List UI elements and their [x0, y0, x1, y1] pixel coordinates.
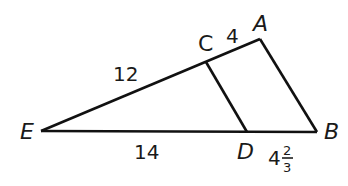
segment-AB: [260, 39, 317, 132]
length-label-DB-numerator: 2: [283, 143, 291, 158]
segment-EB: [41, 131, 317, 132]
vertex-label-D: D: [237, 139, 254, 164]
vertex-label-A: A: [251, 11, 268, 36]
length-label-CA: 4: [226, 24, 239, 48]
segment-CD: [206, 62, 247, 132]
vertex-label-E: E: [20, 119, 34, 144]
length-label-EC: 12: [113, 62, 138, 86]
vertex-label-B: B: [324, 119, 339, 144]
length-label-ED: 14: [134, 140, 159, 164]
vertex-label-C: C: [198, 31, 213, 56]
length-label-DB-whole: 4: [268, 146, 281, 170]
segment-EA: [41, 39, 260, 131]
length-label-DB-denominator: 3: [283, 160, 291, 175]
triangle-diagram: E A B C D 12 4 14 4 2 3: [0, 0, 348, 186]
